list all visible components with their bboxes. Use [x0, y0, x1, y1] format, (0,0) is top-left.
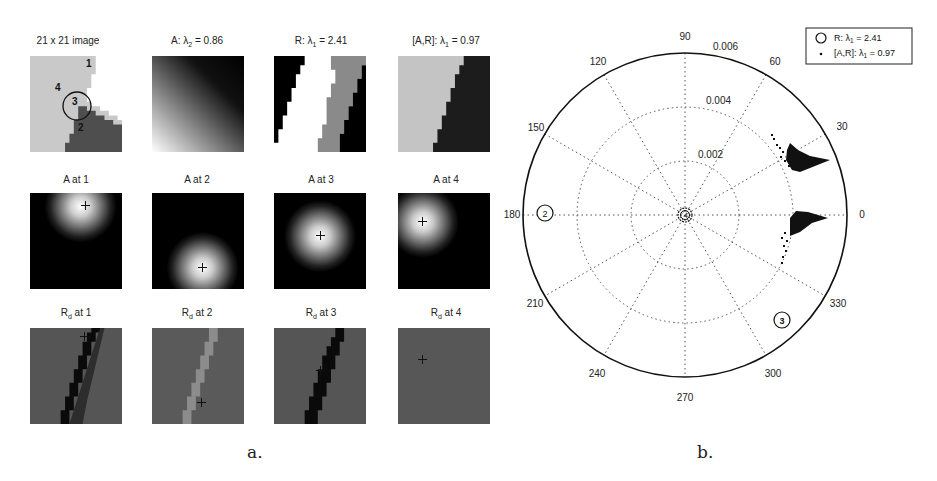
svg-text:60: 60 [769, 56, 781, 67]
r-marker-4-center: 4 [678, 208, 692, 222]
svg-text:2: 2 [542, 209, 547, 219]
svg-text:0.004: 0.004 [706, 95, 731, 106]
ar-scatter-points [771, 134, 830, 264]
legend: R: λ1 = 2.41 [A,R]: λ1 = 0.97 [806, 28, 912, 64]
svg-text:0.006: 0.006 [713, 41, 738, 52]
polar-plot: 2 3 4 0 30 60 90 120 150 180 210 240 270… [0, 0, 937, 481]
svg-text:0: 0 [859, 209, 865, 220]
svg-text:240: 240 [589, 368, 606, 379]
r-marker-3: 3 [774, 312, 790, 328]
caption-b: b. [697, 442, 713, 462]
svg-text:330: 330 [830, 298, 847, 309]
svg-text:3: 3 [779, 316, 784, 326]
svg-text:120: 120 [590, 56, 607, 67]
svg-text:210: 210 [527, 298, 544, 309]
svg-text:R: λ1 = 2.41: R: λ1 = 2.41 [834, 33, 881, 44]
svg-text:4: 4 [684, 212, 688, 219]
svg-text:300: 300 [765, 368, 782, 379]
radial-labels: 0.002 0.004 0.006 [698, 41, 738, 160]
svg-text:180: 180 [504, 209, 521, 220]
svg-text:0.002: 0.002 [698, 149, 723, 160]
svg-text:270: 270 [677, 392, 694, 403]
r-marker-2: 2 [537, 205, 553, 221]
svg-text:30: 30 [836, 121, 848, 132]
svg-text:90: 90 [679, 31, 691, 42]
legend-dot-icon [820, 53, 823, 56]
svg-text:150: 150 [528, 122, 545, 133]
